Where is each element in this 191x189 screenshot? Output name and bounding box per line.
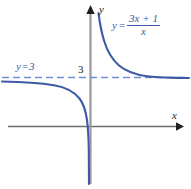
y-axis-arrowhead (86, 5, 94, 14)
curve-label-fraction: 3x + 1 x (127, 13, 160, 37)
curve-label-lhs: y (112, 20, 117, 31)
curve-equation-label: y = 3x + 1 x (112, 13, 160, 37)
asymptote-label: y=3 (16, 61, 35, 72)
x-axis-arrowhead (176, 122, 184, 130)
axis-label-y: y (99, 4, 104, 15)
asymptote-label-equals: = (21, 60, 29, 72)
curve-label-denominator: x (139, 26, 148, 38)
rational-function-graph-figure: y x 3 y=3 y = 3x + 1 x (0, 0, 191, 189)
plot-canvas (0, 0, 191, 189)
curve-label-equals: = (119, 20, 125, 31)
y-axis-tick-label-3: 3 (78, 64, 84, 75)
asymptote-label-value: 3 (29, 60, 35, 72)
curve-label-numerator: 3x + 1 (127, 13, 160, 26)
curve-left-branch (2, 82, 89, 185)
axis-label-x: x (172, 110, 177, 121)
